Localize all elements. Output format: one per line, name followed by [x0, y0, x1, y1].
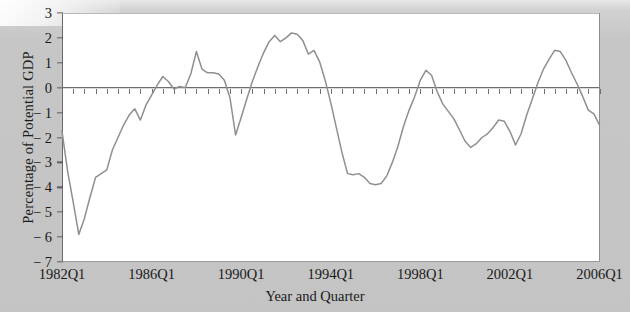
series-svg: [0, 0, 630, 312]
output-gap-line: [62, 33, 600, 235]
x-axis-label: Year and Quarter: [0, 288, 630, 305]
output-gap-chart-figure: Percentage of Potential GDP 3210− 1− 2− …: [0, 0, 630, 312]
